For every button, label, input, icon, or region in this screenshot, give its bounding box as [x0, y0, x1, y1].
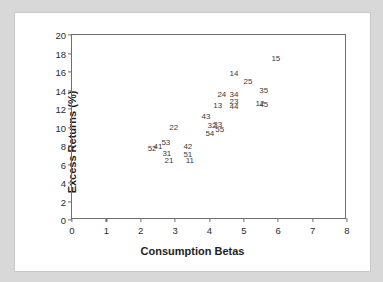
scatter-point-label: 22: [169, 124, 178, 132]
scatter-point-label: 54: [205, 130, 214, 138]
y-tick-mark: [68, 53, 72, 54]
scatter-point-label: 15: [271, 55, 280, 63]
x-tick-mark: [346, 218, 347, 222]
scatter-point-label: 21: [164, 157, 173, 165]
y-tick-mark: [68, 164, 72, 165]
scatter-point-label: 35: [259, 87, 268, 95]
scatter-point-label: 53: [161, 139, 170, 147]
y-tick-mark: [68, 108, 72, 109]
scatter-point-label: 43: [202, 113, 211, 121]
x-tick-mark: [106, 218, 107, 222]
scatter-point-label: 45: [259, 101, 268, 109]
x-tick-mark: [140, 218, 141, 222]
scatter-point-label: 24: [217, 91, 226, 99]
y-tick-mark: [68, 127, 72, 128]
scatter-point-label: 44: [229, 103, 238, 111]
plot-area: 02468101214161820 012345678 524153312122…: [71, 34, 346, 219]
x-tick-mark: [312, 218, 313, 222]
x-tick-mark: [209, 218, 210, 222]
y-tick-mark: [68, 201, 72, 202]
scatter-point-label: 13: [213, 102, 222, 110]
x-tick-mark: [175, 218, 176, 222]
y-tick-mark: [68, 90, 72, 91]
y-tick-mark: [68, 34, 72, 35]
scatter-point-label: 55: [215, 126, 224, 134]
y-tick-mark: [68, 71, 72, 72]
x-axis-title: Consumption Betas: [15, 245, 370, 257]
y-tick-mark: [68, 182, 72, 183]
scatter-point-label: 25: [244, 78, 253, 86]
scatter-point-label: 14: [229, 70, 238, 78]
chart-card: Excess Returns (%) Consumption Betas 024…: [14, 12, 371, 272]
scatter-point-label: 11: [186, 157, 194, 165]
y-tick-mark: [68, 145, 72, 146]
x-tick-mark: [243, 218, 244, 222]
x-tick-mark: [71, 218, 72, 222]
x-tick-mark: [278, 218, 279, 222]
